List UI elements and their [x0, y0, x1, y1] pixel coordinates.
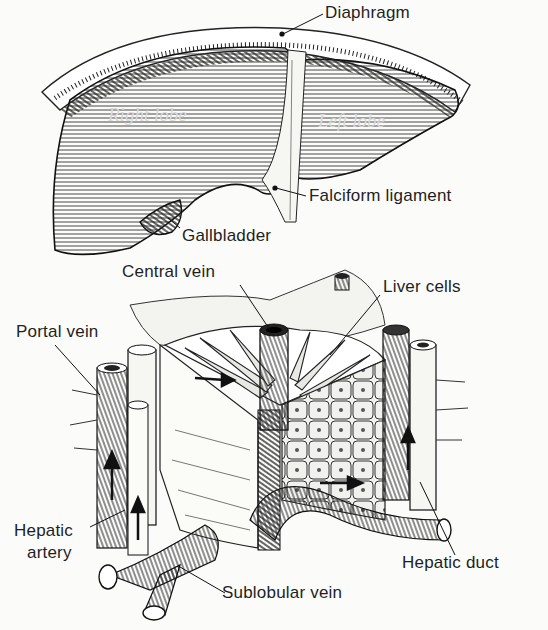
liver-illustration — [0, 0, 548, 630]
falciform-ligament-label: Falciform ligament — [309, 186, 451, 205]
diaphragm-label: Diaphragm — [325, 3, 410, 22]
portal-vein-leader-line — [55, 345, 100, 395]
hepatic-artery-label-line1: Hepatic — [14, 521, 73, 540]
portal-vein-label: Portal vein — [16, 322, 99, 341]
hepatic-duct-leader-line — [420, 482, 455, 555]
hepatic-artery-label-line2: artery — [27, 543, 72, 562]
liver-external-view — [42, 14, 470, 255]
liver-cells-label: Liver cells — [383, 277, 461, 296]
sublobular-vein-label: Sublobular vein — [222, 583, 342, 602]
left-lobe-label: Left lobe — [318, 110, 385, 132]
right-lobe-label: Right lobe — [108, 104, 187, 126]
gallbladder-label: Gallbladder — [182, 226, 271, 245]
central-vein-label: Central vein — [122, 262, 215, 281]
sublobular-vein-leader-line — [180, 567, 225, 593]
hepatic-duct-label: Hepatic duct — [402, 553, 499, 572]
